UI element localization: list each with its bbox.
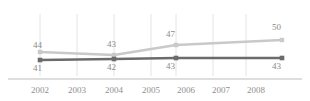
data-point-marker <box>174 43 178 47</box>
data-label-light-2002: 44 <box>33 41 42 50</box>
series-dark-gray <box>38 56 285 63</box>
series-light-gray <box>38 38 284 57</box>
data-label-dark-2004: 42 <box>107 63 116 72</box>
x-axis-label-2008: 2008 <box>240 86 272 95</box>
x-axis-label-2003: 2003 <box>61 86 93 95</box>
x-axis-label-2007: 2007 <box>205 86 237 95</box>
x-axis-label-2004: 2004 <box>98 86 130 95</box>
gridlines <box>40 14 246 76</box>
data-point-marker <box>280 38 284 42</box>
data-label-light-2008: 50 <box>272 23 281 32</box>
data-label-dark-2002: 41 <box>33 64 42 73</box>
x-axis-label-2002: 2002 <box>24 86 56 95</box>
plot-area: 44 43 47 50 41 42 43 43 2002 2003 2004 2… <box>0 0 310 101</box>
data-point-marker <box>38 50 42 54</box>
x-axis-label-2006: 2006 <box>170 86 202 95</box>
data-point-marker <box>280 56 285 61</box>
x-axis-label-2005: 2005 <box>135 86 167 95</box>
data-point-marker <box>112 57 117 62</box>
data-label-light-2004: 43 <box>107 40 116 49</box>
data-point-marker <box>174 56 179 61</box>
data-label-light-2006: 47 <box>166 30 175 39</box>
data-point-marker <box>38 58 43 63</box>
data-label-dark-2006: 43 <box>166 62 175 71</box>
data-point-marker <box>112 53 116 57</box>
data-label-dark-2008: 43 <box>272 62 281 71</box>
line-chart: 44 43 47 50 41 42 43 43 2002 2003 2004 2… <box>0 0 310 101</box>
